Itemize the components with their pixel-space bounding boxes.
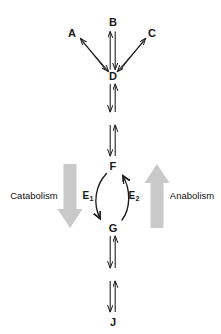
- node-label-g: G: [109, 223, 118, 234]
- arrow-c-to-d: [118, 42, 144, 72]
- reaction-arrows-intermediate2-j: [110, 281, 115, 312]
- reaction-arrows-a-d: [81, 39, 109, 72]
- curved-arrow-f-to-g: [96, 174, 107, 219]
- enzyme-e2-subscript: 2: [136, 195, 140, 202]
- reaction-arrows-g-intermediate2: [110, 236, 115, 268]
- process-label-anabolism: Anabolism: [170, 191, 214, 201]
- reaction-arrows-intermediate1-f: [110, 125, 115, 156]
- arrow-a-to-d: [83, 42, 109, 72]
- enzyme-e1-subscript: 1: [90, 195, 94, 202]
- enzyme-label-e1: E1: [83, 191, 94, 202]
- enzyme-label-e2: E2: [129, 191, 140, 202]
- node-label-a: A: [68, 28, 76, 39]
- enzyme-e1-base: E: [83, 190, 90, 201]
- node-label-d: D: [109, 71, 117, 82]
- anabolism-gray-arrow: [145, 164, 170, 228]
- reaction-arrows-c-d: [118, 39, 146, 72]
- reaction-arrows-d-intermediate1: [110, 84, 115, 112]
- process-label-catabolism: Catabolism: [10, 191, 58, 201]
- node-label-b: B: [109, 17, 117, 28]
- node-label-c: C: [148, 28, 156, 39]
- node-label-j: J: [110, 317, 116, 328]
- enzyme-e2-base: E: [129, 190, 136, 201]
- catabolism-gray-arrow: [58, 164, 83, 228]
- reaction-arrows-b-d: [110, 32, 115, 70]
- metabolic-pathway-diagram: A B C D F G J E1 E2 Catabolism Anabolism: [0, 0, 221, 334]
- node-label-f: F: [110, 161, 117, 172]
